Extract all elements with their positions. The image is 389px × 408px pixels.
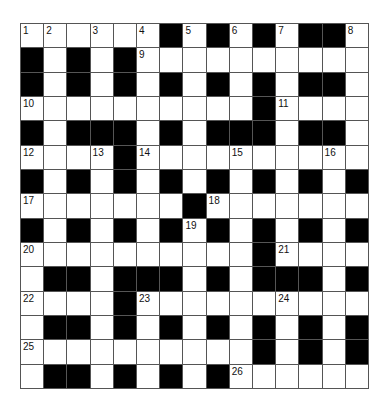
crossword-cell[interactable] xyxy=(276,73,298,96)
crossword-cell[interactable] xyxy=(276,194,298,217)
crossword-cell[interactable] xyxy=(91,48,113,71)
crossword-cell[interactable] xyxy=(44,121,66,144)
crossword-cell[interactable] xyxy=(299,292,321,315)
crossword-cell[interactable] xyxy=(137,194,159,217)
crossword-cell[interactable] xyxy=(44,194,66,217)
crossword-cell[interactable]: 1 xyxy=(21,24,43,47)
crossword-cell[interactable]: 5 xyxy=(183,24,205,47)
crossword-cell[interactable]: 2 xyxy=(44,24,66,47)
crossword-cell[interactable] xyxy=(91,316,113,339)
crossword-cell[interactable] xyxy=(230,243,252,266)
crossword-cell[interactable] xyxy=(276,48,298,71)
crossword-cell[interactable] xyxy=(67,97,89,120)
crossword-cell[interactable] xyxy=(114,97,136,120)
crossword-cell[interactable] xyxy=(323,48,345,71)
crossword-cell[interactable]: 6 xyxy=(230,24,252,47)
crossword-cell[interactable] xyxy=(346,146,368,169)
crossword-cell[interactable] xyxy=(91,170,113,193)
crossword-cell[interactable] xyxy=(44,243,66,266)
crossword-cell[interactable] xyxy=(323,170,345,193)
crossword-cell[interactable] xyxy=(323,267,345,290)
crossword-cell[interactable] xyxy=(346,48,368,71)
crossword-cell[interactable] xyxy=(299,146,321,169)
crossword-cell[interactable] xyxy=(323,219,345,242)
crossword-cell[interactable] xyxy=(183,48,205,71)
crossword-cell[interactable] xyxy=(91,340,113,363)
crossword-cell[interactable] xyxy=(323,316,345,339)
crossword-cell[interactable] xyxy=(230,194,252,217)
crossword-cell[interactable] xyxy=(299,365,321,388)
crossword-cell[interactable] xyxy=(323,194,345,217)
crossword-cell[interactable] xyxy=(91,243,113,266)
crossword-cell[interactable] xyxy=(137,340,159,363)
crossword-cell[interactable] xyxy=(299,97,321,120)
crossword-cell[interactable] xyxy=(44,219,66,242)
crossword-cell[interactable] xyxy=(137,316,159,339)
crossword-cell[interactable] xyxy=(299,48,321,71)
crossword-cell[interactable] xyxy=(160,146,182,169)
crossword-cell[interactable] xyxy=(230,97,252,120)
crossword-cell[interactable] xyxy=(114,243,136,266)
crossword-cell[interactable] xyxy=(207,146,229,169)
crossword-cell[interactable] xyxy=(299,194,321,217)
crossword-cell[interactable] xyxy=(183,121,205,144)
crossword-cell[interactable]: 15 xyxy=(230,146,252,169)
crossword-cell[interactable] xyxy=(230,48,252,71)
crossword-cell[interactable] xyxy=(44,170,66,193)
crossword-cell[interactable] xyxy=(253,194,275,217)
crossword-cell[interactable]: 7 xyxy=(276,24,298,47)
crossword-cell[interactable] xyxy=(44,97,66,120)
crossword-cell[interactable] xyxy=(91,97,113,120)
crossword-cell[interactable] xyxy=(160,48,182,71)
crossword-cell[interactable] xyxy=(346,194,368,217)
crossword-cell[interactable] xyxy=(160,97,182,120)
crossword-cell[interactable]: 4 xyxy=(137,24,159,47)
crossword-cell[interactable] xyxy=(183,243,205,266)
crossword-cell[interactable] xyxy=(183,340,205,363)
crossword-cell[interactable]: 19 xyxy=(183,219,205,242)
crossword-cell[interactable] xyxy=(253,292,275,315)
crossword-cell[interactable] xyxy=(230,340,252,363)
crossword-cell[interactable] xyxy=(91,365,113,388)
crossword-cell[interactable] xyxy=(44,48,66,71)
crossword-cell[interactable] xyxy=(67,194,89,217)
crossword-cell[interactable] xyxy=(137,219,159,242)
crossword-cell[interactable] xyxy=(160,340,182,363)
crossword-cell[interactable] xyxy=(276,340,298,363)
crossword-cell[interactable] xyxy=(230,73,252,96)
crossword-cell[interactable] xyxy=(160,243,182,266)
crossword-cell[interactable]: 17 xyxy=(21,194,43,217)
crossword-cell[interactable] xyxy=(21,316,43,339)
crossword-cell[interactable] xyxy=(21,267,43,290)
crossword-cell[interactable] xyxy=(137,73,159,96)
crossword-cell[interactable]: 25 xyxy=(21,340,43,363)
crossword-cell[interactable] xyxy=(114,24,136,47)
crossword-cell[interactable]: 20 xyxy=(21,243,43,266)
crossword-cell[interactable] xyxy=(160,292,182,315)
crossword-cell[interactable] xyxy=(276,146,298,169)
crossword-cell[interactable] xyxy=(207,292,229,315)
crossword-cell[interactable] xyxy=(207,340,229,363)
crossword-cell[interactable] xyxy=(276,365,298,388)
crossword-cell[interactable]: 26 xyxy=(230,365,252,388)
crossword-cell[interactable]: 18 xyxy=(207,194,229,217)
crossword-cell[interactable]: 9 xyxy=(137,48,159,71)
crossword-cell[interactable] xyxy=(91,73,113,96)
crossword-cell[interactable] xyxy=(207,97,229,120)
crossword-cell[interactable]: 23 xyxy=(137,292,159,315)
crossword-cell[interactable] xyxy=(276,170,298,193)
crossword-cell[interactable] xyxy=(44,340,66,363)
crossword-cell[interactable] xyxy=(183,170,205,193)
crossword-cell[interactable] xyxy=(276,121,298,144)
crossword-cell[interactable] xyxy=(323,292,345,315)
crossword-cell[interactable] xyxy=(183,316,205,339)
crossword-cell[interactable] xyxy=(44,146,66,169)
crossword-cell[interactable] xyxy=(114,340,136,363)
crossword-cell[interactable] xyxy=(91,219,113,242)
crossword-cell[interactable] xyxy=(137,170,159,193)
crossword-cell[interactable] xyxy=(160,194,182,217)
crossword-cell[interactable] xyxy=(346,243,368,266)
crossword-cell[interactable] xyxy=(207,243,229,266)
crossword-cell[interactable] xyxy=(346,365,368,388)
crossword-cell[interactable] xyxy=(276,316,298,339)
